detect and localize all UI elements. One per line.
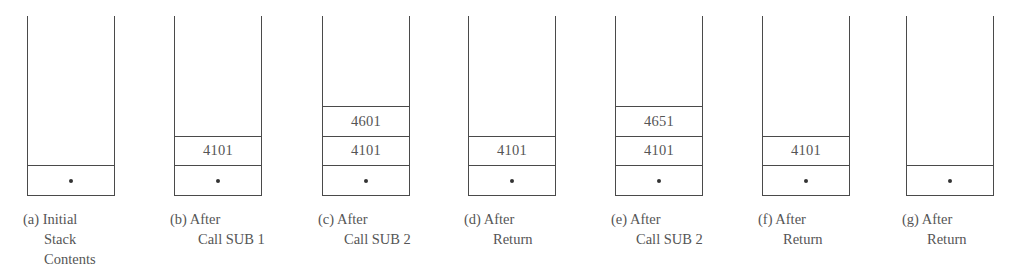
cell-value: 4101 [644,142,674,159]
caption-line: Return [758,229,822,249]
stack-base-cell [763,165,849,195]
caption-a: (a) InitialStackContents [23,209,96,269]
caption-line: (d) After [464,209,532,229]
caption-line: Call SUB 2 [611,229,703,249]
stack-cell-return-address: 4101 [616,136,702,166]
caption-line: (c) After [318,209,411,229]
stack-cell-return-address: 4601 [323,106,409,136]
dot-icon [69,179,73,183]
caption-b: (b) AfterCall SUB 1 [170,209,265,249]
stack-a [27,16,115,196]
stack-cell-return-address: 4651 [616,106,702,136]
caption-line: Call SUB 2 [318,229,411,249]
dot-icon [657,179,661,183]
caption-line: (g) After [902,209,966,229]
cell-value: 4101 [203,142,233,159]
stack-base-cell [28,165,114,195]
cell-value: 4651 [644,113,674,130]
cell-value: 4101 [791,142,821,159]
stack-base-cell [323,165,409,195]
caption-f: (f) AfterReturn [758,209,822,249]
cell-value: 4601 [351,113,381,130]
caption-e: (e) AfterCall SUB 2 [611,209,703,249]
stack-cell-return-address: 4101 [175,136,261,166]
stack-e: 41014651 [615,16,703,196]
stack-cell-return-address: 4101 [763,136,849,166]
stack-base-cell [175,165,261,195]
caption-line: (f) After [758,209,822,229]
stack-f: 4101 [762,16,850,196]
dot-icon [948,179,952,183]
stack-g [906,16,994,196]
stack-c: 41014601 [322,16,410,196]
caption-line: (a) Initial [23,209,96,229]
caption-g: (g) AfterReturn [902,209,966,249]
stack-base-cell [616,165,702,195]
dot-icon [216,179,220,183]
stack-base-cell [469,165,555,195]
cell-value: 4101 [497,142,527,159]
caption-d: (d) AfterReturn [464,209,532,249]
caption-line: (b) After [170,209,265,229]
stack-d: 4101 [468,16,556,196]
caption-c: (c) AfterCall SUB 2 [318,209,411,249]
stack-cell-return-address: 4101 [469,136,555,166]
caption-line: Return [464,229,532,249]
caption-line: Contents [23,249,96,269]
caption-line: (e) After [611,209,703,229]
dot-icon [804,179,808,183]
cell-value: 4101 [351,142,381,159]
stack-cell-return-address: 4101 [323,136,409,166]
dot-icon [510,179,514,183]
caption-line: Return [902,229,966,249]
dot-icon [364,179,368,183]
caption-line: Stack [23,229,96,249]
stack-b: 4101 [174,16,262,196]
caption-line: Call SUB 1 [170,229,265,249]
stack-base-cell [907,165,993,195]
